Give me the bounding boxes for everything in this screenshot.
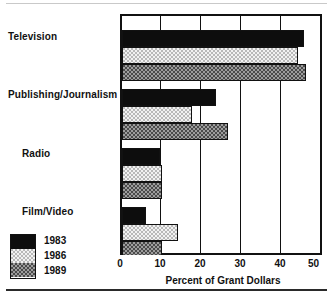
bar-publishing-journalism-1983: [122, 89, 216, 106]
bar-radio-1989: [122, 182, 162, 199]
bar-television-1983: [122, 30, 304, 47]
category-label-publishing-journalism: Publishing/Journalism: [8, 89, 116, 100]
xtick-10: 10: [148, 258, 172, 269]
bar-film-video-1983: [122, 207, 146, 224]
bottom-divider-rule: [6, 289, 327, 291]
bar-television-1986: [122, 47, 298, 64]
bar-publishing-journalism-1989: [122, 123, 228, 140]
legend-label-1986: 1986: [44, 250, 66, 261]
xtick-30: 30: [228, 258, 252, 269]
legend-swatch-1983: [11, 235, 35, 249]
plot-area: [120, 14, 333, 255]
top-divider-rule: [6, 3, 327, 4]
legend-label-1983: 1983: [44, 235, 66, 246]
legend-label-1989: 1989: [44, 265, 66, 276]
bar-publishing-journalism-1986: [122, 106, 192, 123]
bar-film-video-1986: [122, 224, 178, 241]
category-label-film-video: Film/Video: [22, 206, 130, 217]
legend-swatch-stack: [10, 234, 36, 279]
bar-radio-1983: [122, 148, 160, 165]
xtick-50: 50: [308, 258, 332, 269]
bar-radio-1986: [122, 165, 162, 182]
xtick-0: 0: [108, 258, 132, 269]
category-label-radio: Radio: [22, 148, 130, 159]
bar-television-1989: [122, 64, 306, 81]
category-label-television: Television: [8, 31, 116, 42]
legend-swatch-1989: [11, 263, 35, 277]
xtick-20: 20: [188, 258, 212, 269]
bar-film-video-1989: [122, 241, 162, 255]
legend-swatch-1986: [11, 249, 35, 263]
x-axis-title: Percent of Grant Dollars: [120, 275, 326, 286]
xtick-40: 40: [268, 258, 292, 269]
